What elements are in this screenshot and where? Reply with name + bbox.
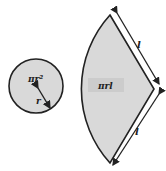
circle-area-label: πr²	[27, 74, 43, 84]
base-circle: πr² r	[9, 59, 63, 113]
sector-area-label: πrl	[97, 81, 113, 91]
slant-bottom-label: l	[135, 126, 139, 137]
slant-top-label: l	[137, 39, 141, 50]
lateral-sector: πrl	[81, 15, 154, 163]
cone-net-diagram: πr² r πrl l l	[0, 0, 166, 171]
